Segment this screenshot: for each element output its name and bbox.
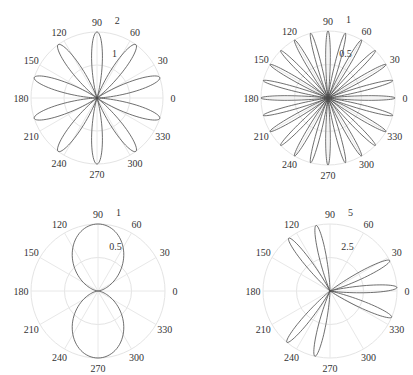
angle-tick-label: 120 [52,219,67,230]
angle-tick-label: 300 [359,159,374,170]
angle-tick-label: 210 [24,324,39,335]
polar-plot-4: 030609012015018021024027030033052.5 [246,207,410,374]
angle-tick-label: 60 [130,27,140,38]
angle-tick-label: 180 [14,93,29,104]
angle-tick-label: 30 [158,55,168,66]
radial-tick-label-inner: 0.5 [109,241,122,252]
angle-tick-label: 150 [24,55,39,66]
angle-tick-label: 330 [389,324,404,335]
angle-tick-label: 300 [361,352,376,363]
angle-tick-label: 60 [132,219,142,230]
radial-tick-label-outer: 1 [346,14,351,25]
angle-tick-label: 180 [246,286,261,297]
angle-tick-label: 240 [284,352,299,363]
angle-tick-label: 120 [52,27,67,38]
angle-tick-label: 300 [129,352,144,363]
angle-tick-label: 240 [52,158,67,169]
angle-tick-label: 120 [282,26,297,37]
angle-tick-label: 30 [392,247,402,258]
angle-tick-label: 90 [325,209,335,220]
angle-tick-label: 270 [91,363,106,374]
angle-tick-label: 210 [24,131,39,142]
angle-tick-label: 210 [254,131,269,142]
radial-tick-label-inner: 1 [112,48,117,59]
angle-tick-label: 240 [282,159,297,170]
angle-tick-label: 270 [321,170,336,181]
angle-tick-label: 330 [157,324,172,335]
angle-tick-label: 60 [364,219,374,230]
angle-tick-label: 90 [93,209,103,220]
angle-tick-label: 180 [14,286,29,297]
angle-tick-label: 30 [160,247,170,258]
angle-tick-label: 30 [390,54,400,65]
angle-tick-label: 330 [155,131,170,142]
angle-tick-label: 150 [254,54,269,65]
angle-tick-label: 270 [323,363,338,374]
radial-tick-label-outer: 5 [348,207,353,218]
angle-tick-label: 0 [405,286,410,297]
angle-tick-label: 0 [173,286,178,297]
radial-tick-label-outer: 1 [116,207,121,218]
angle-tick-label: 60 [362,26,372,37]
polar-plot-1: 030609012015018021024027030033021 [14,15,176,180]
radial-tick-label-inner: 2.5 [341,241,354,252]
polar-plot-3: 030609012015018021024027030033010.5 [14,207,178,374]
angle-tick-label: 120 [284,219,299,230]
polar-plot-2: 030609012015018021024027030033010.5 [244,14,408,181]
angle-tick-label: 0 [403,93,408,104]
angle-tick-label: 270 [90,169,105,180]
angle-tick-label: 150 [256,247,271,258]
angle-tick-label: 240 [52,352,67,363]
angle-tick-label: 90 [323,16,333,27]
angle-tick-label: 300 [128,158,143,169]
angle-tick-label: 150 [24,247,39,258]
angle-tick-label: 180 [244,93,259,104]
angle-tick-label: 0 [171,93,176,104]
angle-tick-label: 330 [387,131,402,142]
angle-tick-label: 90 [92,17,102,28]
angle-tick-label: 210 [256,324,271,335]
radial-tick-label-outer: 2 [115,15,120,26]
polar-plots-figure: 030609012015018021024027030033021 030609… [0,0,413,375]
